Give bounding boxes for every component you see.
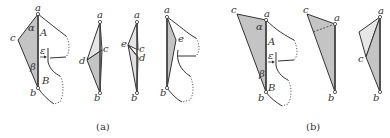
label-alpha: α (256, 21, 263, 32)
dotted-boundary-upper-dots (66, 36, 69, 57)
label-epsilon: ε (40, 45, 45, 56)
label-a: a (35, 2, 41, 13)
vertex-a (135, 20, 138, 23)
label-b: b (160, 87, 166, 98)
label-d: d (79, 55, 85, 66)
boundary-wedge (48, 48, 60, 76)
caption-b: (b) (306, 121, 320, 132)
label-beta: β (29, 61, 36, 72)
dotted-boundary-lower (282, 80, 291, 106)
label-e: e (178, 33, 184, 44)
boundary-lower-edge (38, 88, 54, 104)
label-a: a (164, 4, 170, 15)
figure-canvas: a b c α β A B ε a b c d (0, 0, 390, 138)
subfigure-b: a b c α β A B ε a b c a b (231, 4, 384, 132)
panel-a2: a b c d (79, 9, 109, 103)
label-a: a (134, 9, 140, 20)
panel-b3: a b c (358, 5, 384, 103)
boundary-inner (278, 60, 294, 61)
panel-a1: a b c α β A B ε (10, 2, 69, 104)
dotted-boundary-upper (294, 40, 297, 60)
label-b: b (30, 87, 36, 98)
label-region-B: B (267, 82, 275, 93)
dotted-boundary-upper (196, 38, 199, 56)
vertex-a (98, 20, 101, 23)
label-region-A: A (39, 27, 47, 38)
subfigure-a: a b c α β A B ε a b c d (10, 2, 199, 132)
label-epsilon: ε (268, 50, 273, 61)
panel-a4: a b e (160, 4, 199, 102)
label-c: c (103, 43, 109, 54)
label-b: b (258, 92, 264, 103)
panel-a3: a b c d e (121, 9, 145, 103)
label-beta: β (258, 68, 265, 79)
label-d: d (139, 52, 145, 63)
panel-b2: a b c (303, 4, 340, 103)
dotted-boundary-lower (54, 76, 63, 104)
boundary-inner (50, 57, 66, 58)
label-b: b (328, 92, 334, 103)
dotted-boundary-lower (182, 76, 193, 102)
boundary-wedge (276, 52, 288, 80)
label-region-A: A (267, 36, 275, 47)
label-c: c (10, 32, 16, 43)
boundary-lower-edge (266, 92, 282, 106)
label-alpha: α (28, 22, 35, 33)
label-region-B: B (41, 75, 49, 86)
label-b: b (373, 92, 379, 103)
boundary-wedge (178, 50, 191, 76)
label-c: c (358, 53, 364, 64)
boundary-lower-edge (167, 88, 182, 102)
label-b: b (94, 92, 100, 103)
label-b: b (131, 92, 137, 103)
label-c: c (231, 4, 237, 15)
panel-b1: a b c α β A B ε (231, 4, 297, 106)
vertex-b (36, 86, 39, 89)
vertex-a (165, 15, 168, 18)
caption-a: (a) (96, 121, 110, 132)
label-a: a (378, 5, 384, 16)
label-c: c (303, 4, 309, 15)
label-a: a (264, 8, 270, 19)
label-a: a (334, 12, 340, 23)
shaded-triangle-aeb (167, 17, 176, 88)
label-a: a (97, 9, 103, 20)
label-e: e (121, 38, 127, 49)
